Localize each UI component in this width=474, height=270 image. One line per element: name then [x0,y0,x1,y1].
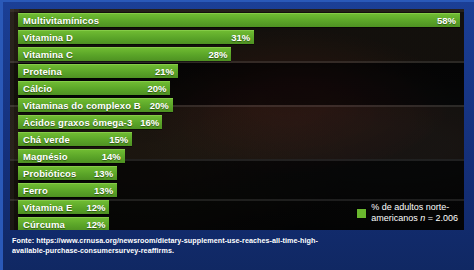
bar-category-label: Proteína [23,65,62,78]
bar-category-label: Probióticos [23,167,76,180]
bar-value-label: 13% [86,184,113,197]
bar-row: Magnésio14% [18,149,460,163]
chart-panel: Multivitamínicos58%Vitamina D31%Vitamina… [10,9,464,230]
bar-category-label: Magnésio [23,150,68,163]
bar-value-label: 15% [101,133,128,146]
bar-category-label: Ácidos graxos ômega-3 [23,116,132,129]
bar-row: Ácidos graxos ômega-316% [18,115,460,129]
bar-row: Ferro13% [18,183,460,197]
bar-value-label: 16% [132,116,159,129]
legend-label: % de adultos norte- americanos n = 2.006 [371,202,458,224]
bar-value-label: 21% [147,65,174,78]
chart-legend: % de adultos norte- americanos n = 2.006 [357,202,458,224]
bar: Vitamina D31% [18,30,254,44]
bar-category-label: Cálcio [23,82,52,95]
bar: Cálcio20% [18,81,170,95]
bar-list: Multivitamínicos58%Vitamina D31%Vitamina… [18,13,460,230]
bar: Multivitamínicos58% [18,13,460,27]
bar: Probióticos13% [18,166,117,180]
source-footnote: Fonte: https://www.crnusa.org/newsroom/d… [12,236,342,255]
bar-row: Vitamina C28% [18,47,460,61]
bar-value-label: 14% [94,150,121,163]
bar-row: Probióticos13% [18,166,460,180]
legend-line-1: % de adultos norte- [371,202,449,212]
bar: Cúrcuma12% [18,217,109,230]
legend-line-2-suffix: = 2.006 [425,213,458,223]
bar-value-label: 31% [223,31,250,44]
bar-value-label: 12% [78,201,105,214]
bar: Chá verde15% [18,132,132,146]
bar-row: Cálcio20% [18,81,460,95]
bar-value-label: 58% [429,14,456,27]
bar-category-label: Vitaminas do complexo B [23,99,141,112]
bar-row: Multivitamínicos58% [18,13,460,27]
bar-value-label: 20% [142,99,169,112]
bar: Magnésio14% [18,149,125,163]
bar-value-label: 13% [86,167,113,180]
bar-category-label: Vitamina D [23,31,73,44]
bar: Ferro13% [18,183,117,197]
bar-category-label: Vitamina E [23,201,72,214]
bar-category-label: Cúrcuma [23,218,65,230]
bar-category-label: Multivitamínicos [23,14,99,27]
legend-swatch-icon [357,209,366,218]
bar-row: Vitaminas do complexo B20% [18,98,460,112]
bar: Vitamina C28% [18,47,231,61]
infographic-figure: Multivitamínicos58%Vitamina D31%Vitamina… [0,0,474,270]
bar-value-label: 28% [200,48,227,61]
bar-row: Chá verde15% [18,132,460,146]
bar: Vitaminas do complexo B20% [18,98,173,112]
bar-category-label: Vitamina C [23,48,73,61]
bar-value-label: 12% [78,218,105,230]
bar-row: Proteína21% [18,64,460,78]
bar: Proteína21% [18,64,178,78]
bar-row: Vitamina D31% [18,30,460,44]
bar: Ácidos graxos ômega-316% [18,115,162,129]
bar-category-label: Ferro [23,184,48,197]
bar-value-label: 20% [139,82,166,95]
bar-category-label: Chá verde [23,133,70,146]
legend-line-2-prefix: americanos [371,213,420,223]
bar: Vitamina E12% [18,200,109,214]
